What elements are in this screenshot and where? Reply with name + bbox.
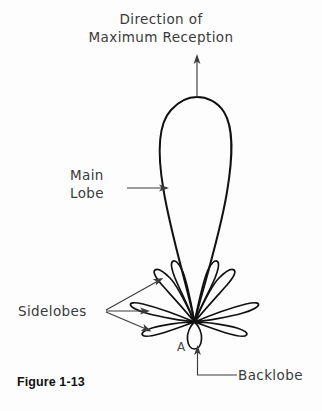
main-lobe-shape: [160, 97, 232, 322]
sidelobes-label: Sidelobes: [18, 303, 87, 319]
point-a-label: A: [177, 340, 186, 354]
sidelobe-lower-left: [142, 322, 194, 336]
backlobe-shape: [187, 322, 201, 349]
sidelobe-cluster: [130, 261, 258, 349]
figure-caption: Figure 1-13: [17, 375, 85, 389]
sidelobe-right-horizontal: [195, 303, 259, 322]
direction-title-line2: Maximum Reception: [89, 29, 234, 45]
main-lobe-label-line1: Main: [70, 167, 104, 183]
sidelobe-pointer-lower-arrow-icon: [106, 312, 152, 332]
sidelobe-lower-right: [195, 322, 247, 336]
direction-arrow-icon: [194, 54, 201, 97]
sidelobe-pointer-upper-arrow-icon: [106, 278, 164, 310]
main-lobe-label-line2: Lobe: [70, 185, 104, 201]
sidelobe-left-horizontal: [130, 303, 194, 322]
figure-page: Direction of Maximum Reception Main Lobe…: [0, 0, 322, 411]
sidelobe-pointer-middle-arrow-icon: [106, 307, 150, 314]
backlobe-label: Backlobe: [238, 367, 303, 383]
antenna-pattern-figure: Direction of Maximum Reception Main Lobe…: [0, 0, 322, 411]
direction-title-line1: Direction of: [119, 11, 203, 27]
backlobe-pointer-elbow-arrow-icon: [194, 345, 237, 375]
